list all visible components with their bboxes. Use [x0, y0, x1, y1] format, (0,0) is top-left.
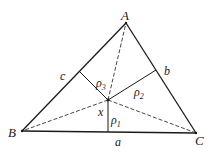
label-side-c: c	[60, 69, 66, 83]
dashed-x-to-B	[22, 100, 108, 131]
triangle-diagram: A B C c b a x ρ3 ρ2 ρ1	[0, 0, 216, 158]
label-rho2: ρ2	[133, 85, 144, 101]
label-point-x: x	[97, 105, 104, 119]
label-rho1: ρ1	[110, 113, 121, 129]
label-vertex-C: C	[195, 133, 204, 148]
vertex-B-dot	[21, 130, 23, 132]
side-b-AC	[126, 23, 196, 133]
label-side-b: b	[164, 64, 170, 78]
dashed-x-to-C	[108, 100, 196, 133]
label-side-a: a	[115, 135, 121, 149]
side-a-BC	[22, 131, 196, 133]
label-rho3: ρ3	[95, 76, 106, 92]
perpendicular-rho2	[108, 70, 156, 100]
point-x	[107, 99, 110, 102]
label-vertex-B: B	[8, 125, 16, 140]
diagram-canvas: A B C c b a x ρ3 ρ2 ρ1	[0, 0, 216, 158]
label-vertex-A: A	[120, 8, 129, 23]
dashed-x-to-A	[108, 23, 126, 100]
